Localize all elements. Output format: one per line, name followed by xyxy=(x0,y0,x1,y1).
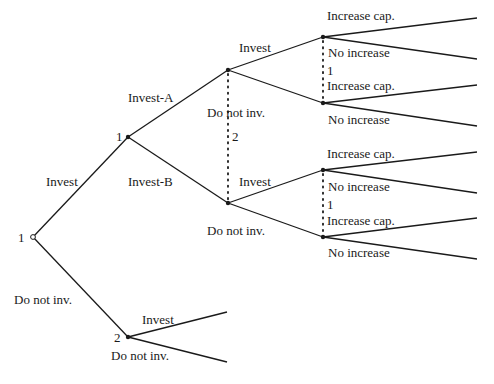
a-do-not-label: Do not inv. xyxy=(207,106,265,119)
decision-node-dot-icon xyxy=(321,235,325,239)
information-sets xyxy=(228,41,323,235)
ba-no-increase-label: No increase xyxy=(328,180,390,193)
tree-edge xyxy=(228,70,323,103)
p1-player-label: 1 xyxy=(116,130,123,143)
tree-edges xyxy=(33,18,477,362)
a-invest-label: Invest xyxy=(239,41,271,54)
ab-no-increase-label: No increase xyxy=(328,113,390,126)
invest-b-label: Invest-B xyxy=(128,175,173,188)
aa-increase-label: Increase cap. xyxy=(327,9,395,22)
decision-node-dot-icon xyxy=(226,201,230,205)
p2-invest-label: Invest xyxy=(142,313,174,326)
ab-increase-label: Increase cap. xyxy=(327,79,395,92)
root-node-open-icon xyxy=(31,235,36,240)
invest-a-label: Invest-A xyxy=(128,91,174,104)
tree-edge xyxy=(128,137,228,203)
root-invest-label: Invest xyxy=(46,175,78,188)
p2-player-label: 2 xyxy=(114,331,121,344)
root-do-not-label: Do not inv. xyxy=(14,293,72,306)
game-tree-diagram xyxy=(0,0,494,384)
decision-node-dot-icon xyxy=(321,35,325,39)
infoset-upper-player-label: 1 xyxy=(327,64,334,77)
tree-edge xyxy=(33,237,128,337)
aa-no-increase-label: No increase xyxy=(328,46,390,59)
ba-increase-label: Increase cap. xyxy=(327,147,395,160)
b-do-not-label: Do not inv. xyxy=(207,224,265,237)
decision-node-dot-icon xyxy=(226,68,230,72)
root-player-label: 1 xyxy=(18,231,25,244)
b-invest-label: Invest xyxy=(239,175,271,188)
decision-node-dot-icon xyxy=(321,101,325,105)
decision-node-dot-icon xyxy=(321,168,325,172)
decision-node-dot-icon xyxy=(126,135,130,139)
infoset-lower-player-label: 1 xyxy=(327,198,334,211)
infoset-a-player-label: 2 xyxy=(232,130,239,143)
bb-no-increase-label: No increase xyxy=(328,246,390,259)
p2-do-not-label: Do not inv. xyxy=(111,349,169,362)
bb-increase-label: Increase cap. xyxy=(327,214,395,227)
decision-node-dot-icon xyxy=(126,335,130,339)
